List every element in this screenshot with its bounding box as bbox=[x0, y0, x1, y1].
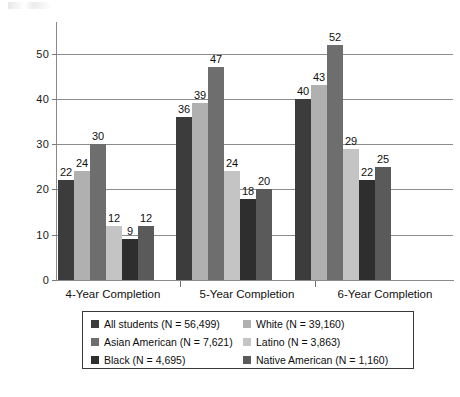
bar-value-label: 36 bbox=[178, 104, 190, 115]
x-axis-line bbox=[56, 280, 454, 281]
legend: All students (N = 56,499)White (N = 39,1… bbox=[82, 311, 414, 369]
bar-group: 404352292225 bbox=[295, 22, 391, 280]
bar-value-label: 47 bbox=[210, 54, 222, 65]
legend-label: Latino (N = 3,863) bbox=[256, 336, 340, 348]
x-axis-group-tick bbox=[180, 281, 181, 287]
legend-item[interactable]: Asian American (N = 7,621) bbox=[91, 336, 233, 348]
bar[interactable]: 24 bbox=[74, 171, 90, 280]
legend-swatch bbox=[243, 320, 251, 328]
bar-value-label: 40 bbox=[297, 86, 309, 97]
bar[interactable]: 47 bbox=[208, 67, 224, 280]
bar-value-label: 18 bbox=[242, 186, 254, 197]
bar-value-label: 20 bbox=[258, 176, 270, 187]
y-tick-mark bbox=[52, 235, 57, 236]
y-tick-mark bbox=[52, 144, 57, 145]
y-tick-label: 10 bbox=[36, 229, 49, 240]
legend-item[interactable]: Native American (N = 1,160) bbox=[243, 354, 388, 366]
bar-group: 22243012912 bbox=[58, 22, 154, 280]
plot-area: 01020304050 2224301291236394724182040435… bbox=[57, 22, 453, 280]
bar[interactable]: 40 bbox=[295, 99, 311, 280]
bar[interactable]: 29 bbox=[343, 149, 359, 280]
scan-artifact bbox=[8, 2, 52, 9]
y-tick-label: 30 bbox=[36, 139, 49, 150]
legend-swatch bbox=[91, 356, 99, 364]
bar-value-label: 22 bbox=[361, 167, 373, 178]
x-axis-label: 4-Year Completion bbox=[53, 288, 173, 301]
bar[interactable]: 18 bbox=[240, 199, 256, 280]
x-axis-group-tick bbox=[315, 281, 316, 287]
y-tick-mark bbox=[52, 280, 57, 281]
legend-items: All students (N = 56,499)White (N = 39,1… bbox=[83, 312, 413, 368]
bar-value-label: 25 bbox=[377, 154, 389, 165]
bar[interactable]: 52 bbox=[327, 45, 343, 280]
bar[interactable]: 36 bbox=[176, 117, 192, 280]
legend-item[interactable]: All students (N = 56,499) bbox=[91, 318, 220, 330]
legend-label: Native American (N = 1,160) bbox=[256, 354, 388, 366]
bar-value-label: 12 bbox=[140, 213, 152, 224]
bar-group: 363947241820 bbox=[176, 22, 272, 280]
bar[interactable]: 30 bbox=[90, 144, 106, 280]
y-tick-mark bbox=[52, 54, 57, 55]
bar[interactable]: 20 bbox=[256, 189, 272, 280]
bar-chart: 01020304050 2224301291236394724182040435… bbox=[0, 0, 460, 397]
legend-label: Black (N = 4,695) bbox=[104, 354, 185, 366]
bar-value-label: 24 bbox=[226, 158, 238, 169]
bar[interactable]: 22 bbox=[58, 180, 74, 280]
legend-label: White (N = 39,160) bbox=[256, 318, 344, 330]
bar-value-label: 12 bbox=[108, 213, 120, 224]
y-tick-label: 50 bbox=[36, 48, 49, 59]
bar[interactable]: 9 bbox=[122, 239, 138, 280]
legend-label: All students (N = 56,499) bbox=[104, 318, 220, 330]
bar-value-label: 39 bbox=[194, 90, 206, 101]
y-tick-mark bbox=[52, 189, 57, 190]
bar[interactable]: 43 bbox=[311, 85, 327, 280]
x-axis-label: 5-Year Completion bbox=[187, 288, 307, 301]
bar[interactable]: 24 bbox=[224, 171, 240, 280]
y-tick-label: 0 bbox=[43, 275, 49, 286]
x-axis-label: 6-Year Completion bbox=[325, 288, 445, 301]
bar-value-label: 52 bbox=[329, 32, 341, 43]
bar-value-label: 30 bbox=[92, 131, 104, 142]
bar[interactable]: 25 bbox=[375, 167, 391, 280]
bar-value-label: 24 bbox=[76, 158, 88, 169]
y-tick-mark bbox=[52, 99, 57, 100]
bar-value-label: 22 bbox=[60, 167, 72, 178]
legend-swatch bbox=[243, 356, 251, 364]
bar-value-label: 9 bbox=[127, 226, 133, 237]
bar-value-label: 29 bbox=[345, 136, 357, 147]
y-tick-label: 40 bbox=[36, 93, 49, 104]
bar-value-label: 43 bbox=[313, 72, 325, 83]
legend-swatch bbox=[91, 320, 99, 328]
legend-item[interactable]: Black (N = 4,695) bbox=[91, 354, 185, 366]
bar[interactable]: 12 bbox=[138, 226, 154, 280]
legend-item[interactable]: White (N = 39,160) bbox=[243, 318, 344, 330]
legend-swatch bbox=[91, 338, 99, 346]
bar[interactable]: 12 bbox=[106, 226, 122, 280]
legend-label: Asian American (N = 7,621) bbox=[104, 336, 233, 348]
y-tick-label: 20 bbox=[36, 184, 49, 195]
legend-swatch bbox=[243, 338, 251, 346]
legend-item[interactable]: Latino (N = 3,863) bbox=[243, 336, 340, 348]
bar[interactable]: 39 bbox=[192, 103, 208, 280]
bar[interactable]: 22 bbox=[359, 180, 375, 280]
